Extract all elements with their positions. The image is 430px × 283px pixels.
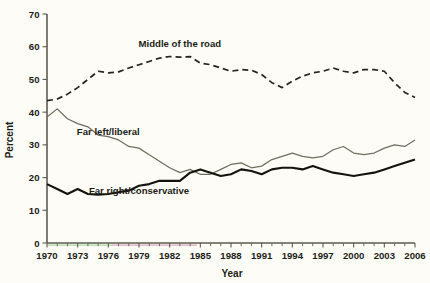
x-axis-tick-label: 1988 (220, 250, 242, 261)
x-axis-tick-label: 1991 (251, 250, 273, 261)
x-axis-tick-label: 2003 (374, 250, 395, 261)
y-axis-tick-label: 50 (29, 74, 40, 85)
y-axis-tick-label: 40 (29, 107, 40, 118)
series-line-far-left-liberal (47, 109, 415, 174)
series-line-middle-of-the-road (47, 57, 415, 101)
x-axis-tick-label: 2000 (343, 250, 364, 261)
y-axis-tick-label: 0 (34, 238, 39, 249)
x-axis-tick-label: 1997 (312, 250, 333, 261)
series-annotation-far-right-conservative: Far right/conservative (89, 185, 189, 196)
x-axis-title: Year (221, 268, 242, 279)
series-annotation-far-left-liberal: Far left/liberal (77, 126, 140, 137)
line-chart-svg: 0102030405060701970197319761979198219851… (0, 0, 430, 283)
x-axis-tick-label: 1976 (98, 250, 119, 261)
x-axis-tick-label: 1982 (159, 250, 180, 261)
x-axis-tick-label: 1979 (128, 250, 149, 261)
series-annotation-middle-of-the-road: Middle of the road (139, 38, 222, 49)
x-axis-tick-label: 1970 (36, 250, 57, 261)
y-axis-tick-label: 60 (29, 41, 40, 52)
y-axis-tick-label: 30 (29, 139, 40, 150)
x-axis-tick-label: 1973 (67, 250, 88, 261)
x-axis-tick-label: 1985 (190, 250, 212, 261)
y-axis-title: Percent (4, 121, 15, 158)
x-axis-tick-label: 1994 (282, 250, 304, 261)
y-axis-tick-label: 70 (29, 9, 40, 20)
chart-figure: 0102030405060701970197319761979198219851… (0, 0, 430, 283)
y-axis-tick-label: 10 (29, 205, 40, 216)
x-axis-tick-label: 2006 (404, 250, 425, 261)
y-axis-tick-label: 20 (29, 172, 40, 183)
